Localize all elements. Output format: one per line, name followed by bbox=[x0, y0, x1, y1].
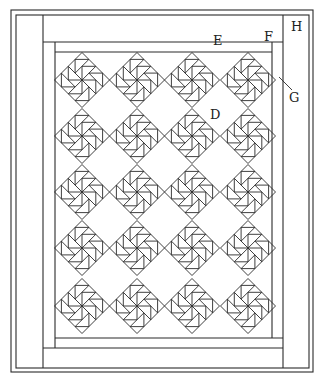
outer-edge bbox=[11, 10, 313, 372]
quilt-diagram: H E F G D bbox=[0, 0, 322, 385]
quilt-block bbox=[110, 165, 165, 220]
quilt-block bbox=[110, 221, 165, 276]
quilt-block bbox=[165, 221, 220, 276]
quilt-block bbox=[165, 53, 220, 108]
quilt-block bbox=[221, 279, 276, 334]
quilt-block bbox=[165, 279, 220, 334]
quilt-block bbox=[55, 221, 110, 276]
quilt-block bbox=[165, 165, 220, 220]
quilt-block bbox=[110, 279, 165, 334]
quilt-block bbox=[110, 53, 165, 108]
quilt-block bbox=[221, 221, 276, 276]
quilt-block bbox=[55, 109, 110, 164]
quilt-block bbox=[221, 53, 276, 108]
quilt-block bbox=[55, 165, 110, 220]
quilt-block bbox=[55, 279, 110, 334]
label-d: D bbox=[210, 108, 220, 121]
quilt-block bbox=[221, 165, 276, 220]
label-h: H bbox=[291, 20, 302, 33]
label-e: E bbox=[213, 34, 223, 47]
quilt-block bbox=[221, 109, 276, 164]
quilt-drawing bbox=[0, 0, 322, 385]
quilt-block bbox=[55, 53, 110, 108]
label-g-leader-line bbox=[279, 77, 292, 90]
binding-inner-edge bbox=[16, 15, 309, 368]
label-f: F bbox=[264, 30, 273, 43]
label-g: G bbox=[289, 91, 299, 104]
quilt-block bbox=[110, 109, 165, 164]
block-grid bbox=[55, 53, 276, 334]
